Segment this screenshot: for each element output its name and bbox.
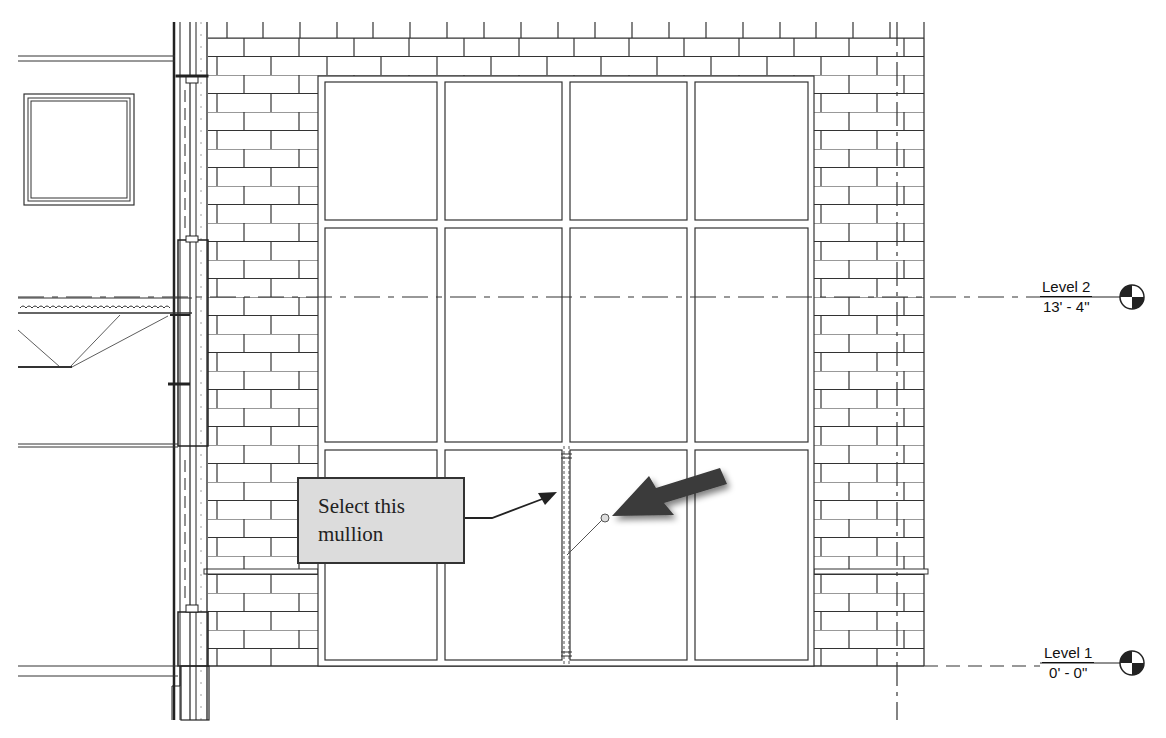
- elevation-drawing: [0, 0, 1166, 738]
- callout-box: Select this mullion: [297, 477, 465, 564]
- level-2-label[interactable]: Level 2 13' - 4": [1040, 278, 1092, 315]
- window: [24, 94, 134, 205]
- level-1-name: Level 1: [1042, 644, 1094, 663]
- level-1-label[interactable]: Level 1 0' - 0": [1042, 644, 1094, 681]
- level-1-elevation: 0' - 0": [1042, 663, 1094, 681]
- level-2-elevation: 13' - 4": [1040, 297, 1092, 315]
- level-2-name: Level 2: [1040, 278, 1092, 297]
- floor-slab: [18, 56, 192, 676]
- callout-line-2: mullion: [318, 522, 383, 546]
- callout-line-1: Select this: [318, 494, 405, 518]
- curtain-wall: [318, 76, 814, 666]
- wall-section: [168, 22, 209, 720]
